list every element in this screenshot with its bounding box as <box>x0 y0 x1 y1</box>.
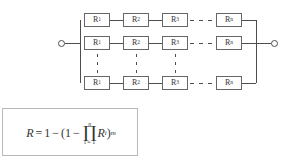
reliability-formula: R = 1 − ( 1 − n ∏ i = 1 Ri )m <box>3 109 139 157</box>
resistor-r2-rowm[interactable]: R2 <box>123 76 149 90</box>
resistor-label-sub: 3 <box>176 40 179 46</box>
left-lead-wire <box>65 43 80 44</box>
vertical-ellipsis-col1 <box>97 54 98 76</box>
resistor-label-sub: n <box>230 40 233 46</box>
resistor-label-sub: n <box>230 80 233 86</box>
formula-box: R = 1 − ( 1 − n ∏ i = 1 Ri )m <box>2 108 138 156</box>
vertical-ellipsis-col3 <box>175 54 176 76</box>
row1-wire-rn-bus <box>242 20 256 21</box>
resistor-r1-row1[interactable]: R1 <box>84 13 110 27</box>
product-symbol-icon: ∏ <box>83 126 97 139</box>
resistor-label-sub: n <box>230 17 233 23</box>
right-lead-wire <box>256 43 271 44</box>
resistor-label-sub: 2 <box>137 17 140 23</box>
resistor-label-sub: 1 <box>98 17 101 23</box>
horizontal-ellipsis-row2 <box>190 43 212 44</box>
resistor-r3-row1[interactable]: R3 <box>162 13 188 27</box>
resistor-rn-row1[interactable]: Rn <box>216 13 242 27</box>
rowm-wire-r2-r3 <box>149 83 162 84</box>
formula-exponent: m <box>111 129 116 137</box>
row2-wire-r2-r3 <box>149 43 162 44</box>
resistor-r1-row2[interactable]: R1 <box>84 36 110 50</box>
horizontal-ellipsis-row1 <box>190 20 212 21</box>
resistor-r2-row2[interactable]: R2 <box>123 36 149 50</box>
resistor-label-sub: 3 <box>176 17 179 23</box>
resistor-rn-row2[interactable]: Rn <box>216 36 242 50</box>
vertical-ellipsis-col2 <box>136 54 137 76</box>
resistor-label-sub: 3 <box>176 80 179 86</box>
rowm-wire-rn-bus <box>242 83 256 84</box>
resistor-r2-row1[interactable]: R2 <box>123 13 149 27</box>
row1-wire-r1-r2 <box>110 20 123 21</box>
formula-minus-b: − <box>71 126 82 141</box>
row1-wire-r2-r3 <box>149 20 162 21</box>
rowm-wire-r1-r2 <box>110 83 123 84</box>
formula-lhs: R <box>26 126 33 141</box>
resistor-r1-rowm[interactable]: R1 <box>84 76 110 90</box>
formula-equals: = <box>34 126 45 141</box>
right-bus-wire <box>256 20 257 83</box>
left-bus-wire <box>80 20 81 83</box>
resistor-label-sub: 1 <box>98 80 101 86</box>
row2-wire-r1-r2 <box>110 43 123 44</box>
formula-minus-a: − <box>50 126 61 141</box>
resistor-r3-row2[interactable]: R3 <box>162 36 188 50</box>
resistor-label-sub: 1 <box>98 40 101 46</box>
resistor-label-sub: 2 <box>137 40 140 46</box>
formula-product-term: R <box>97 126 104 141</box>
row2-wire-rn-bus <box>242 43 256 44</box>
right-terminal-node <box>271 40 278 47</box>
diagram-canvas: R1 R2 R3 Rn R1 R2 R3 Rn R1 R2 R3 Rn <box>0 0 298 164</box>
product-lower-limit: i = 1 <box>84 139 95 145</box>
horizontal-ellipsis-rowm <box>190 83 212 84</box>
resistor-label-sub: 2 <box>137 80 140 86</box>
resistor-r3-rowm[interactable]: R3 <box>162 76 188 90</box>
resistor-rn-rowm[interactable]: Rn <box>216 76 242 90</box>
product-operator: n ∏ i = 1 <box>83 121 97 144</box>
left-terminal-node <box>58 40 65 47</box>
